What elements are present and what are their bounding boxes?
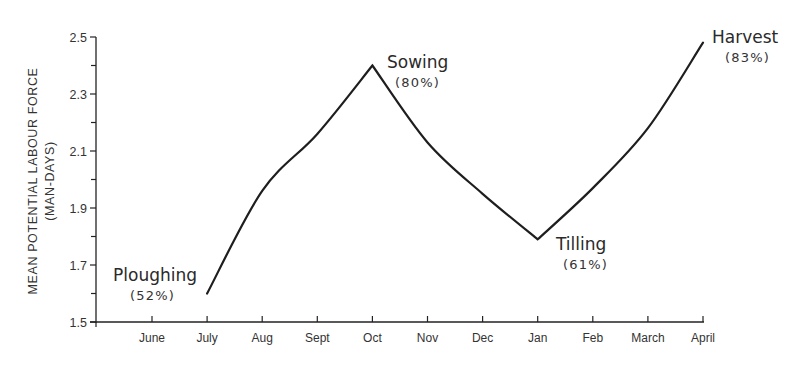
annotation-tilling: Tilling (61%): [555, 234, 608, 272]
y-tick-label: 1.7: [70, 259, 87, 273]
annotation-label: Sowing: [387, 52, 448, 72]
y-tick-label: 1.9: [70, 202, 87, 216]
x-tick-label: March: [631, 331, 664, 345]
x-tick-label: Dec: [472, 331, 493, 345]
annotation-harvest: Harvest (83%): [712, 27, 779, 65]
x-axis-ticks: JuneJulyAugSeptOctNovDecJanFebMarchApril: [96, 316, 715, 345]
y-tick-label: 1.5: [70, 316, 87, 330]
x-tick-label: Feb: [582, 331, 603, 345]
y-axis-title-sub: (MAN-DAYS): [43, 141, 57, 220]
annotation-sowing: Sowing (80%): [387, 52, 448, 90]
x-tick-label: July: [196, 331, 217, 345]
annotation-pct: (83%): [725, 50, 770, 65]
x-tick-label: Aug: [252, 331, 273, 345]
x-tick-label: Nov: [417, 331, 438, 345]
annotation-pct: (52%): [130, 288, 175, 303]
y-tick-label: 2.5: [70, 31, 87, 45]
annotation-label: Ploughing: [113, 265, 197, 285]
x-tick-label: Jan: [528, 331, 547, 345]
annotation-ploughing: Ploughing (52%): [113, 265, 197, 303]
y-axis-ticks: 1.51.71.92.12.32.5: [70, 31, 96, 330]
labour-force-line: [207, 43, 703, 294]
annotation-label: Harvest: [712, 27, 779, 47]
annotation-label: Tilling: [555, 234, 606, 254]
x-tick-label: Oct: [363, 331, 382, 345]
x-tick-label: June: [139, 331, 165, 345]
annotation-pct: (61%): [563, 257, 608, 272]
labour-force-chart: MEAN POTENTIAL LABOUR FORCE (MAN-DAYS) 1…: [0, 0, 798, 372]
annotation-pct: (80%): [395, 75, 440, 90]
x-tick-label: Sept: [305, 331, 330, 345]
y-axis-title: MEAN POTENTIAL LABOUR FORCE (MAN-DAYS): [26, 68, 57, 295]
x-tick-label: April: [691, 331, 715, 345]
y-tick-label: 2.1: [70, 145, 87, 159]
y-tick-label: 2.3: [70, 88, 87, 102]
y-axis-title-main: MEAN POTENTIAL LABOUR FORCE: [26, 68, 40, 295]
